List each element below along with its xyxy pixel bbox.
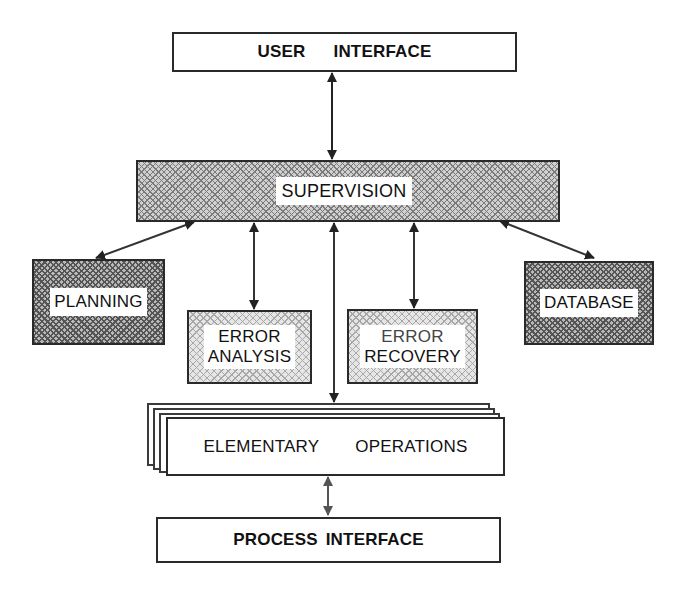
error-recovery-node: ERROR RECOVERY [347,309,478,384]
error-recovery-line-2: RECOVERY [364,347,461,367]
planning-node: PLANNING [32,259,165,345]
elementary-operations-label: ELEMENTARYOPERATIONS [196,434,476,460]
system-architecture-diagram: USERINTERFACE SUPERVISION PLANNING ERROR… [0,0,685,597]
error-recovery-line-1: ERROR [364,327,461,347]
user-interface-node: USERINTERFACE [172,32,517,72]
error-analysis-label: ERROR ANALYSIS [204,325,296,368]
process-interface-node: PROCESS INTERFACE [156,517,501,563]
error-analysis-node: ERROR ANALYSIS [187,310,312,384]
arrow-supervision-planning [96,222,194,258]
supervision-node: SUPERVISION [136,160,560,222]
database-node: DATABASE [524,261,654,345]
process-interface-label: PROCESS INTERFACE [225,527,432,553]
elementary-operations-word-1: ELEMENTARY [204,437,320,456]
user-interface-word-1: USER [257,42,305,61]
arrow-supervision-database [500,221,594,258]
planning-label: PLANNING [50,288,147,316]
error-analysis-line-1: ERROR [208,327,292,347]
error-recovery-label: ERROR RECOVERY [360,325,465,368]
elementary-operations-word-2: OPERATIONS [355,437,467,456]
elementary-operations-node: ELEMENTARYOPERATIONS [166,417,505,476]
user-interface-word-2: INTERFACE [333,42,431,61]
supervision-label: SUPERVISION [276,177,413,206]
database-label: DATABASE [540,289,638,317]
user-interface-label: USERINTERFACE [249,39,439,65]
error-analysis-line-2: ANALYSIS [208,347,292,367]
